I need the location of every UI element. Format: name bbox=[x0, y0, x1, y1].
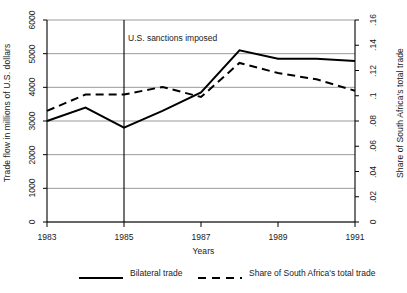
y-axis-left-tick-label: 3000 bbox=[20, 116, 44, 126]
legend-label-bilateral-trade: Bilateral trade bbox=[130, 268, 182, 278]
series-line-dashed bbox=[47, 63, 355, 111]
x-axis-tick-label: 1989 bbox=[258, 232, 298, 242]
y-axis-left-tick-label: 4000 bbox=[20, 82, 44, 92]
chart-figure: Trade flow in millions of U.S. dollars S… bbox=[0, 0, 407, 293]
x-axis-tick-label: 1985 bbox=[104, 232, 144, 242]
y-axis-right-tick-label: .08 bbox=[362, 116, 384, 126]
legend-swatch-dashed bbox=[197, 273, 243, 283]
y-axis-left-tick-label: 2000 bbox=[20, 150, 44, 160]
axis-ticks bbox=[43, 20, 359, 227]
y-axis-right-tick-label: .16 bbox=[362, 15, 384, 25]
plot-area bbox=[0, 0, 407, 293]
x-axis-tick-label: 1987 bbox=[181, 232, 221, 242]
y-axis-right-tick-label: .12 bbox=[362, 66, 384, 76]
y-axis-left-tick-label: 1000 bbox=[20, 183, 44, 193]
y-axis-left-tick-label: 6000 bbox=[20, 15, 44, 25]
y-axis-right-tick-label: .04 bbox=[362, 167, 384, 177]
x-axis-tick-label: 1983 bbox=[27, 232, 67, 242]
legend-swatch-solid bbox=[78, 273, 124, 283]
y-axis-right-tick-label: 0 bbox=[362, 217, 384, 227]
legend-label-share-total-trade: Share of South Africa's total trade bbox=[249, 268, 375, 278]
y-axis-right-tick-label: .02 bbox=[362, 192, 384, 202]
y-axis-right-tick-label: .06 bbox=[362, 141, 384, 151]
y-axis-right-tick-label: .1 bbox=[362, 91, 384, 101]
y-axis-left-tick-label: 5000 bbox=[20, 49, 44, 59]
data-series bbox=[47, 50, 355, 127]
series-line-solid bbox=[47, 50, 355, 127]
y-axis-right-tick-label: .14 bbox=[362, 40, 384, 50]
x-axis-tick-label: 1991 bbox=[335, 232, 375, 242]
chart-legend: Bilateral trade Share of South Africa's … bbox=[0, 268, 407, 290]
gridlines bbox=[47, 20, 355, 222]
y-axis-left-tick-label: 0 bbox=[20, 217, 44, 227]
